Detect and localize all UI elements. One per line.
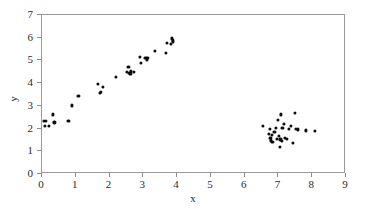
data-point	[144, 57, 147, 60]
data-point	[262, 124, 265, 127]
x-tick-label: 7	[275, 178, 281, 190]
x-axis-tick	[41, 173, 42, 177]
y-axis-tick	[37, 37, 41, 38]
data-point	[126, 71, 129, 74]
data-point	[114, 75, 117, 78]
x-tick-label: 0	[38, 178, 44, 190]
data-point	[51, 113, 54, 116]
data-point	[154, 49, 157, 52]
data-point	[139, 61, 142, 64]
data-point	[171, 39, 174, 42]
data-point	[132, 71, 135, 74]
data-point	[275, 137, 278, 140]
y-axis-tick	[37, 173, 41, 174]
y-axis-label: y	[7, 96, 19, 102]
x-axis-tick	[142, 173, 143, 177]
data-point	[276, 118, 279, 121]
data-point	[96, 83, 99, 86]
data-point	[285, 137, 288, 140]
x-axis-tick	[109, 173, 110, 177]
data-point	[280, 113, 283, 116]
data-point	[43, 125, 46, 128]
data-point	[284, 137, 287, 140]
data-point	[279, 138, 282, 141]
x-tick-label: 1	[72, 178, 78, 190]
data-point	[70, 104, 73, 107]
data-point	[44, 120, 47, 123]
y-axis-tick	[37, 128, 41, 129]
data-point	[280, 140, 283, 143]
data-point	[281, 127, 284, 130]
x-axis-tick	[277, 173, 278, 177]
y-tick-label: 7	[28, 8, 34, 20]
data-point	[138, 55, 141, 58]
y-tick-label: 2	[28, 122, 34, 134]
x-axis-tick	[210, 173, 211, 177]
data-point	[47, 124, 50, 127]
plot-frame	[41, 14, 345, 173]
data-point	[282, 122, 285, 125]
data-point	[53, 121, 56, 124]
x-tick-label: 9	[342, 178, 348, 190]
y-tick-label: 0	[28, 167, 34, 179]
data-point	[313, 130, 316, 133]
data-point	[269, 139, 272, 142]
y-axis-tick	[37, 59, 41, 60]
data-point	[170, 37, 173, 40]
data-point	[296, 128, 299, 131]
data-point	[101, 86, 104, 89]
data-point	[267, 132, 270, 135]
x-tick-label: 4	[173, 178, 179, 190]
y-tick-label: 3	[28, 99, 34, 111]
data-point	[42, 119, 45, 122]
x-axis-tick	[345, 173, 346, 177]
data-point	[269, 136, 272, 139]
y-tick-label: 6	[28, 31, 34, 43]
data-point	[293, 111, 296, 114]
data-point	[290, 125, 293, 128]
data-point	[127, 65, 130, 68]
data-point	[171, 41, 174, 44]
data-point	[99, 91, 102, 94]
y-axis-tick	[37, 105, 41, 106]
y-axis-tick	[37, 14, 41, 15]
x-axis-tick	[75, 173, 76, 177]
data-point	[292, 141, 295, 144]
data-point	[169, 42, 172, 45]
data-point	[268, 127, 271, 130]
data-point	[288, 127, 291, 130]
data-point	[270, 133, 273, 136]
x-tick-label: 6	[241, 178, 247, 190]
data-point	[279, 145, 282, 148]
scatter-plot-figure: 012345678901234567 x y	[0, 0, 366, 209]
data-point	[165, 41, 168, 44]
data-point	[129, 72, 132, 75]
y-tick-label: 1	[28, 144, 34, 156]
y-tick-label: 4	[28, 76, 34, 88]
x-axis-tick	[244, 173, 245, 177]
data-point	[273, 130, 276, 133]
data-point	[146, 56, 149, 59]
y-axis-tick	[37, 150, 41, 151]
y-tick-label: 5	[28, 53, 34, 65]
data-point	[271, 140, 274, 143]
data-point	[274, 127, 277, 130]
data-point	[67, 119, 70, 122]
x-axis-label: x	[190, 192, 196, 204]
data-point	[145, 58, 148, 61]
x-axis-tick	[311, 173, 312, 177]
data-point	[278, 135, 281, 138]
x-tick-label: 3	[140, 178, 146, 190]
data-point	[77, 94, 80, 97]
x-tick-label: 8	[308, 178, 314, 190]
x-tick-label: 2	[106, 178, 112, 190]
x-tick-label: 5	[207, 178, 213, 190]
data-point	[164, 51, 167, 54]
data-point	[100, 90, 103, 93]
y-axis-tick	[37, 82, 41, 83]
data-point	[128, 71, 131, 74]
x-axis-tick	[176, 173, 177, 177]
data-point	[294, 127, 297, 130]
data-point	[130, 70, 133, 73]
data-point	[305, 129, 308, 132]
